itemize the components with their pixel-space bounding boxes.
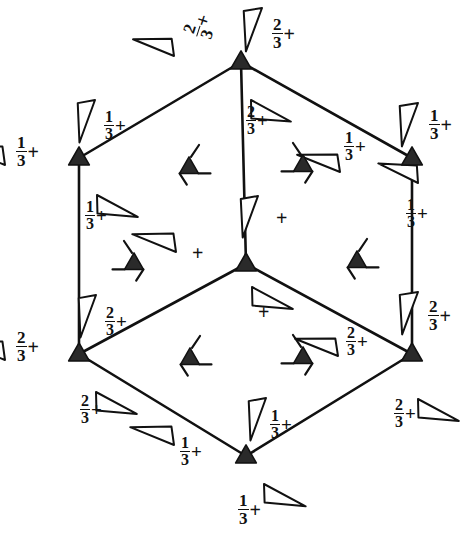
screw-axis-upper-inner-right: [282, 143, 313, 183]
height-label-bottom-left-fraction: 13: [180, 435, 190, 469]
screw-axis-lower-inner-left-tail-3: [181, 364, 188, 375]
screw-axis-lower-inner-right-tail-3: [305, 363, 312, 374]
height-label-center-upper-numerator: 2: [246, 104, 256, 121]
two-fold-axis-arrow-left-lower-edge: [70, 291, 96, 339]
two-fold-axis-arrow-bottom-outer-head: [258, 484, 308, 517]
two-fold-axis-arrow-right-outer-low-head: [412, 399, 461, 432]
height-label-upper-right-edge-fraction: 13: [344, 130, 354, 164]
screw-axis-mid-left-tail-3: [136, 269, 143, 280]
height-label-top-outer: 23+: [272, 16, 295, 52]
height-label-bottom-outer-sign: +: [250, 500, 261, 520]
height-label-top-outer-fraction: 23: [272, 16, 283, 52]
screw-axis-upper-inner-right-tail-3: [305, 171, 312, 182]
height-label-left-edge-mid-numerator: 1: [85, 199, 95, 216]
height-label-right-edge-mid-numerator: 1: [406, 197, 416, 214]
height-label-upper-left-edge-sign: +: [115, 116, 126, 135]
two-fold-axis-arrow-right-lower-edge-head: [391, 288, 418, 336]
height-label-left-lower-edge-sign: +: [116, 312, 127, 331]
screw-axis-mid-left-tail-1: [124, 241, 132, 253]
height-label-right-outer-low-numerator: 2: [394, 397, 404, 414]
height-label-upper-right-edge-denominator: 3: [344, 147, 354, 163]
height-label-top-outer-sign: +: [284, 24, 295, 44]
height-label-right-lower-edge-sign: +: [440, 306, 451, 326]
height-label-center-mid-sign: +: [276, 208, 287, 228]
height-label-lower-left-edge-sign: +: [91, 400, 102, 419]
height-label-top-outer-numerator: 2: [272, 16, 283, 34]
screw-axis-lower-inner-left-tail-1: [192, 336, 200, 348]
height-label-left-edge-mid-sign: +: [96, 206, 107, 225]
height-label-bottom-outer-fraction: 13: [238, 492, 249, 528]
height-label-lower-right-edge-numerator: 2: [346, 325, 356, 342]
screw-axis-upper-inner-left-tail-1: [191, 145, 199, 157]
two-fold-axis-arrow-upper-left-edge: [69, 96, 95, 144]
two-fold-axis-arrow-center-lower: [246, 287, 295, 320]
height-label-lower-left-edge-denominator: 3: [80, 410, 90, 426]
screw-axis-upper-inner-left: [180, 145, 211, 185]
height-label-right-edge-mid-sign: +: [417, 204, 428, 223]
two-fold-axis-arrow-left-outer-head: [0, 136, 10, 165]
height-label-right-lower-edge-denominator: 3: [428, 316, 439, 333]
two-fold-axis-arrow-bottom-outer: [258, 484, 308, 517]
height-label-bottom-left-numerator: 1: [180, 435, 190, 452]
two-fold-axis-arrow-center-left-head: [131, 223, 181, 252]
height-label-center-upper: 23+: [246, 104, 268, 138]
screw-axis-upper-inner-left-body: [180, 157, 199, 174]
screw-axis-lower-inner-left-body: [181, 348, 200, 365]
three-fold-axis-top: [231, 51, 252, 69]
three-fold-axis-upper-left: [69, 147, 90, 165]
height-label-center-upper-denominator: 3: [246, 121, 256, 137]
height-label-lower-left-edge-numerator: 2: [80, 393, 90, 410]
height-label-left-outer-lower-sign: +: [28, 337, 39, 357]
height-label-left-edge-mid-fraction: 13: [85, 199, 95, 233]
height-label-right-outer-top-sign: +: [441, 115, 452, 135]
two-fold-axis-arrow-right-outer-low: [412, 399, 461, 432]
height-label-lower-right-edge: 23+: [346, 325, 368, 359]
height-label-left-lower-edge-numerator: 2: [105, 305, 115, 322]
height-label-left-outer-lower-fraction: 23: [16, 329, 27, 365]
two-fold-axis-arrow-left-outer-lower-head: [0, 331, 10, 360]
height-label-upper-left-edge-fraction: 13: [104, 109, 114, 143]
height-label-right-lower-edge-numerator: 2: [428, 298, 439, 316]
height-label-lower-right-edge-denominator: 3: [346, 342, 356, 358]
height-label-right-outer-top: 13+: [429, 107, 452, 143]
two-fold-axis-arrow-top-left: [132, 28, 179, 56]
height-label-right-outer-top-denominator: 3: [429, 125, 440, 142]
height-label-right-lower-edge: 23+: [428, 298, 451, 334]
height-label-upper-right-edge-numerator: 1: [344, 130, 354, 147]
height-label-left-edge-mid-denominator: 3: [85, 216, 95, 232]
two-fold-axis-arrow-center-lower-head: [246, 287, 295, 320]
height-label-left-lower-edge: 23+: [105, 305, 127, 339]
screw-axis-lower-inner-left: [181, 336, 212, 376]
screw-axis-upper-inner-right-tail-1: [293, 143, 301, 155]
height-label-right-outer-top-fraction: 13: [429, 107, 440, 143]
height-label-center-lower: +: [258, 302, 269, 322]
two-fold-axis-arrow-bottom-center: [240, 394, 266, 442]
height-label-upper-left-edge-denominator: 3: [104, 126, 114, 142]
two-fold-axis-arrow-right-outer-top-head: [390, 99, 418, 148]
height-label-bottom-outer-numerator: 1: [238, 492, 249, 510]
three-fold-axis-lower-left: [69, 343, 90, 361]
two-fold-axis-arrow-left-outer-lower: [0, 331, 10, 360]
height-label-left-lower-edge-fraction: 23: [105, 305, 115, 339]
height-label-center-mid: +: [276, 208, 287, 228]
two-fold-axis-arrow-center-left: [131, 223, 181, 252]
height-label-left-outer: 13+: [16, 134, 39, 170]
height-label-lower-left-edge-fraction: 23: [80, 393, 90, 427]
height-label-right-outer-low-fraction: 23: [394, 397, 404, 431]
three-fold-axis-center: [236, 253, 257, 271]
height-label-bottom-outer: 13+: [238, 492, 261, 528]
two-fold-axis-arrow-layer: [0, 4, 461, 517]
height-label-left-lower-edge-denominator: 3: [105, 322, 115, 338]
height-label-bottom-center: 13+: [270, 408, 292, 442]
height-label-right-edge-mid-denominator: 3: [406, 214, 416, 230]
height-label-left-outer-fraction: 13: [16, 134, 27, 170]
screw-axis-mid-right-tail-3: [348, 267, 355, 278]
height-label-bottom-center-sign: +: [281, 415, 292, 434]
height-label-top-outer-denominator: 3: [272, 34, 283, 51]
height-label-right-lower-edge-fraction: 23: [428, 298, 439, 334]
height-label-center-left: +: [192, 243, 203, 263]
height-label-right-edge-mid: 13+: [406, 197, 428, 231]
height-label-bottom-center-denominator: 3: [270, 425, 280, 441]
height-label-left-outer-lower: 23+: [16, 329, 39, 365]
height-label-upper-left-edge-numerator: 1: [104, 109, 114, 126]
